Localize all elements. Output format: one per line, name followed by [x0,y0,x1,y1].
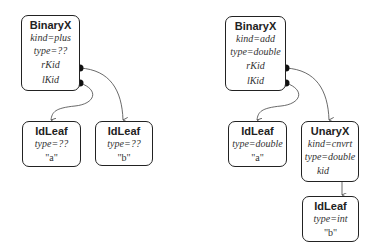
type-attr: type=double [302,151,358,164]
type-attr: type=?? [23,138,80,151]
edge-rkid [80,68,123,120]
rkid-attr: rKid [22,59,79,72]
value-text: "a" [229,151,286,164]
value-text: "b" [303,226,358,239]
kind-attr: kind=add [226,33,285,46]
value-text: "b" [96,151,152,164]
node-title: IdLeaf [23,124,80,138]
lkid-attr: lKid [226,75,285,88]
type-attr: type=double [229,138,286,151]
unaryx-node: UnaryX kind=cnvrt type=double kid [301,121,359,182]
node-title: IdLeaf [303,199,358,213]
edge-rkid [286,68,329,120]
type-attr: type=double [226,46,285,59]
rkid-attr: rKid [226,60,285,73]
type-attr: type=?? [96,138,152,151]
kind-attr: kind=cnvrt [302,138,358,151]
node-title: BinaryX [226,19,285,33]
kind-attr: kind=plus [22,32,79,45]
type-attr: type=?? [22,45,79,58]
node-title: UnaryX [302,124,358,138]
lkid-attr: lKid [22,74,79,87]
idleaf-node: IdLeaf type=?? "a" [22,121,81,167]
binaryx-node: BinaryX kind=plus type=?? rKid lKid [21,15,80,91]
type-attr: type=int [303,213,358,226]
value-text: "a" [23,151,80,164]
idleaf-node: IdLeaf type=int "b" [302,196,359,242]
idleaf-node: IdLeaf type=?? "b" [95,121,153,166]
node-title: IdLeaf [229,124,286,138]
node-title: IdLeaf [96,124,152,138]
binaryx-node: BinaryX kind=add type=double rKid lKid [225,16,286,91]
idleaf-node: IdLeaf type=double "a" [228,121,287,167]
kid-attr: kid [302,165,344,178]
node-title: BinaryX [22,18,79,32]
